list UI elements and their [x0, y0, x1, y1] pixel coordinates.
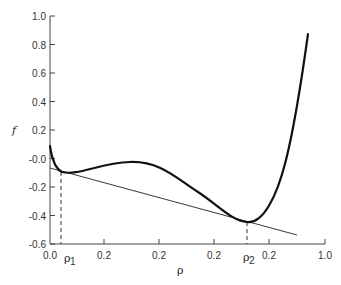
- y-ticks: [50, 16, 55, 244]
- y-tick-labels: 1.0 0.8 0.6 0.4 0.2 -0.0 -0.2 -0.4 -0.6: [29, 11, 47, 250]
- y-tick-label: -0.6: [29, 239, 47, 250]
- rho2-subscript: 2: [249, 255, 255, 266]
- y-tick-label: 0.6: [32, 68, 46, 79]
- rho1-label: ρ 1: [64, 252, 76, 267]
- free-energy-chart: 1.0 0.8 0.6 0.4 0.2 -0.0 -0.2 -0.4 -0.6 …: [0, 0, 341, 285]
- rho1-subscript: 1: [70, 256, 76, 267]
- common-tangent-line: [50, 168, 297, 235]
- x-tick-labels: 0.0 0.2 0.2 0.2 0.2 1.0: [43, 250, 332, 261]
- rho2-label: ρ 2: [243, 251, 255, 266]
- y-tick-label: -0.2: [29, 182, 47, 193]
- y-tick-label: -0.4: [29, 211, 47, 222]
- x-axis-label: ρ: [177, 264, 183, 277]
- x-tick-label: 0.2: [207, 250, 221, 261]
- y-tick-label: 0.4: [32, 97, 46, 108]
- x-ticks: [104, 239, 325, 244]
- x-tick-label: 0.2: [152, 250, 166, 261]
- x-tick-label: 0.2: [262, 250, 276, 261]
- free-energy-curve: [50, 34, 308, 222]
- y-tick-label: 1.0: [32, 11, 46, 22]
- y-tick-label: 0.2: [32, 125, 46, 136]
- x-tick-label: 0.0: [43, 250, 57, 261]
- y-tick-label: 0.8: [32, 40, 46, 51]
- x-tick-label: 0.2: [97, 250, 111, 261]
- x-tick-label: 1.0: [318, 250, 332, 261]
- y-tick-label: -0.0: [29, 154, 47, 165]
- y-axis-label: f: [11, 124, 18, 137]
